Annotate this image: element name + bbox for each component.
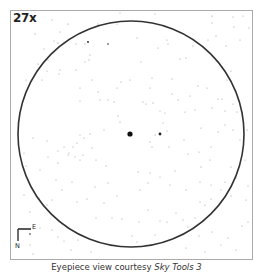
star [215, 35, 216, 36]
star [58, 237, 59, 238]
star [170, 185, 171, 186]
star [200, 166, 201, 167]
star [188, 154, 189, 155]
star [246, 200, 247, 201]
star [64, 241, 65, 242]
star [225, 111, 226, 112]
star [184, 140, 185, 141]
star [150, 142, 151, 143]
star [211, 147, 212, 148]
star [139, 222, 140, 223]
star [199, 236, 200, 237]
star [231, 196, 232, 197]
star [120, 13, 121, 14]
star [122, 219, 123, 220]
star [227, 80, 228, 81]
star [205, 205, 206, 206]
star [240, 140, 241, 141]
star [201, 128, 202, 129]
star [176, 213, 177, 214]
star [80, 160, 81, 161]
star [100, 100, 101, 101]
caption-prefix: Eyepiece view courtesy [51, 262, 154, 272]
star [210, 160, 211, 161]
star [78, 240, 79, 241]
star [195, 110, 196, 111]
star [30, 212, 31, 213]
star [155, 14, 156, 15]
star [48, 60, 49, 61]
star [155, 235, 156, 236]
star [140, 190, 141, 191]
star [104, 130, 105, 131]
star [88, 59, 89, 60]
star [180, 59, 181, 60]
star [87, 199, 88, 200]
star [117, 115, 118, 116]
star [225, 125, 226, 126]
star [247, 130, 248, 131]
star [160, 177, 161, 178]
eyepiece-view: 27x E N Eyepiece view courtesy Sky Tools… [0, 0, 253, 278]
star [248, 222, 249, 223]
star [95, 187, 96, 188]
star [96, 218, 97, 219]
star [106, 166, 107, 167]
star [29, 233, 31, 235]
star [160, 111, 161, 112]
star [208, 40, 209, 41]
star [112, 218, 113, 219]
star [152, 147, 153, 148]
star [108, 100, 109, 101]
star [226, 46, 227, 47]
star [143, 102, 144, 103]
star [107, 43, 109, 45]
star [137, 242, 138, 243]
star [98, 92, 99, 93]
star [150, 173, 151, 174]
star [117, 88, 118, 89]
star [34, 33, 35, 34]
star [211, 15, 212, 16]
star [137, 38, 138, 39]
star [159, 133, 162, 136]
star [84, 43, 85, 44]
star [60, 70, 61, 71]
star [83, 155, 84, 156]
star [52, 230, 53, 231]
star [231, 71, 232, 72]
star [85, 62, 86, 63]
star [76, 44, 77, 45]
star [30, 245, 31, 246]
star [40, 228, 41, 229]
star [186, 190, 187, 191]
star [207, 88, 208, 89]
star [186, 58, 187, 59]
star [212, 108, 213, 109]
star [211, 199, 212, 200]
star [172, 94, 173, 95]
caption: Eyepiece view courtesy Sky Tools 3 [0, 262, 253, 272]
star [54, 41, 55, 42]
star [195, 218, 196, 219]
star [167, 40, 168, 41]
star [75, 157, 76, 158]
star [92, 80, 93, 81]
star [56, 180, 57, 181]
star [228, 238, 229, 239]
star [155, 135, 156, 136]
star [26, 80, 27, 81]
star [114, 102, 115, 103]
star [77, 143, 78, 144]
star [62, 190, 63, 191]
star [73, 147, 74, 148]
star [175, 171, 176, 172]
magnification-label: 27x [13, 11, 37, 25]
star [221, 245, 222, 246]
star [92, 148, 93, 149]
star [148, 183, 149, 184]
star [42, 80, 43, 81]
star [193, 46, 194, 47]
star [80, 88, 81, 89]
star [190, 96, 191, 97]
